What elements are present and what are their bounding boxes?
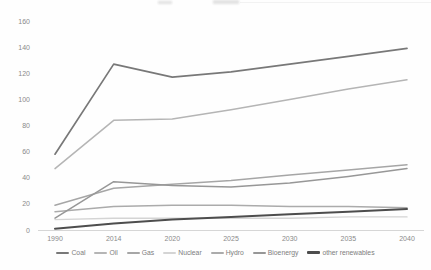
legend-marker-icon: [307, 251, 320, 254]
legend-marker-icon: [253, 252, 266, 254]
legend-label: Coal: [71, 249, 85, 256]
legend-item-hydro: Hydro: [211, 249, 244, 256]
legend-marker-icon: [163, 252, 176, 254]
chart-legend: CoalOilGasNuclearHydroBioenergyother ren…: [0, 249, 431, 256]
legend-label: Oil: [109, 249, 117, 256]
legend-marker-icon: [56, 252, 69, 254]
y-axis-tick-label: 0: [26, 227, 30, 234]
legend-marker-icon: [127, 252, 140, 254]
legend-item-nuclear: Nuclear: [163, 249, 201, 256]
legend-marker-icon: [211, 252, 224, 254]
x-axis-tick-label: 2020: [165, 235, 181, 242]
y-axis-tick-label: 120: [18, 70, 30, 77]
y-axis-tick-label: 60: [22, 148, 30, 155]
legend-item-gas: Gas: [127, 249, 154, 256]
legend-item-bioenergy: Bioenergy: [253, 249, 299, 256]
legend-item-oil: Oil: [94, 249, 117, 256]
y-axis-tick-label: 20: [22, 200, 30, 207]
y-axis-tick-label: 80: [22, 122, 30, 129]
legend-label: Nuclear: [178, 249, 201, 256]
legend-label: other renewables: [322, 249, 374, 256]
legend-item-coal: Coal: [56, 249, 85, 256]
legend-label: Gas: [142, 249, 154, 256]
y-axis-tick-label: 100: [18, 96, 30, 103]
x-axis-tick-label: 2035: [341, 235, 357, 242]
x-axis-tick-label: 2030: [282, 235, 298, 242]
series-line-coal: [55, 48, 407, 154]
legend-label: Hydro: [226, 249, 244, 256]
series-line-oil: [55, 80, 407, 169]
energy-demand-line-chart-figure: 0204060801001201401601990201420202025203…: [0, 0, 431, 270]
legend-marker-icon: [94, 252, 107, 254]
line-chart-plot: 0204060801001201401601990201420202025203…: [0, 0, 431, 248]
y-axis-tick-label: 140: [18, 44, 30, 51]
legend-item-other-renewables: other renewables: [307, 249, 374, 256]
y-axis-tick-label: 40: [22, 174, 30, 181]
x-axis-tick-label: 2040: [399, 235, 415, 242]
x-axis-tick-label: 2025: [223, 235, 239, 242]
x-axis-tick-label: 1990: [47, 235, 63, 242]
legend-label: Bioenergy: [268, 249, 299, 256]
x-axis-tick-label: 2014: [106, 235, 122, 242]
y-axis-tick-label: 160: [18, 18, 30, 25]
